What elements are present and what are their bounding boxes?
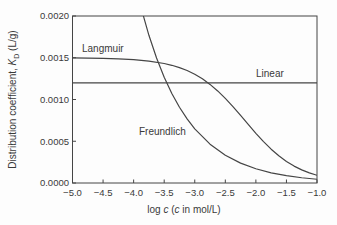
x-axis-title-text: in mol/L) bbox=[180, 204, 221, 215]
isotherm-figure: −5.0−4.5−4.0−3.5−3.0−2.5−2.0−1.5−1.00.00… bbox=[0, 0, 337, 225]
plot-canvas: −5.0−4.5−4.0−3.5−3.0−2.5−2.0−1.5−1.00.00… bbox=[0, 0, 337, 225]
x-tick-label: −4.5 bbox=[94, 187, 113, 198]
langmuir-curve-label: Langmuir bbox=[82, 43, 124, 55]
plot-border bbox=[73, 16, 318, 183]
x-tick-label: −3.0 bbox=[185, 187, 204, 198]
y-tick-label: 0.0015 bbox=[40, 52, 69, 63]
y-axis-title-text: Distribution coefficient, bbox=[7, 65, 18, 168]
curves bbox=[73, 0, 318, 179]
y-axis-title-text: (L/g) bbox=[7, 30, 18, 53]
kd-symbol: K bbox=[7, 59, 18, 66]
x-axis-title: log c (c in mol/L) bbox=[73, 204, 295, 215]
x-tick-label: −4.0 bbox=[124, 187, 143, 198]
series-curve-freundlich bbox=[134, 0, 317, 179]
x-axis-title-text: log bbox=[147, 204, 163, 215]
x-tick-label: −2.5 bbox=[216, 187, 235, 198]
x-tick-label: −2.0 bbox=[246, 187, 265, 198]
kd-subscript: D bbox=[13, 54, 20, 59]
x-tick-label: −1.0 bbox=[308, 187, 327, 198]
axis-ticks bbox=[73, 16, 318, 183]
x-tick-label: −3.5 bbox=[155, 187, 174, 198]
linear-curve-label: Linear bbox=[256, 68, 284, 80]
freundlich-curve-label: Freundlich bbox=[139, 126, 186, 138]
y-tick-label: 0.0000 bbox=[40, 177, 69, 188]
x-tick-label: −5.0 bbox=[63, 187, 82, 198]
y-tick-label: 0.0010 bbox=[40, 94, 69, 105]
y-tick-label: 0.0005 bbox=[40, 136, 69, 147]
y-tick-label: 0.0020 bbox=[40, 10, 69, 21]
axis-tick-labels: −5.0−4.5−4.0−3.5−3.0−2.5−2.0−1.5−1.00.00… bbox=[40, 10, 326, 198]
x-tick-label: −1.5 bbox=[277, 187, 296, 198]
y-axis-title: Distribution coefficient, KD (L/g) bbox=[7, 0, 20, 200]
